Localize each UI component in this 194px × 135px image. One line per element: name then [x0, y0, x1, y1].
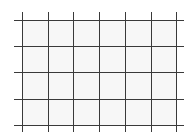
grid-vertical-line [22, 12, 23, 132]
grid-vertical-line [73, 12, 74, 132]
grid-vertical-line [48, 12, 49, 132]
grid-vertical-line [151, 12, 152, 132]
grid-vertical-line [176, 12, 177, 132]
grid-vertical-line [99, 12, 100, 132]
grid-diagram [0, 0, 194, 135]
grid-vertical-line [125, 12, 126, 132]
